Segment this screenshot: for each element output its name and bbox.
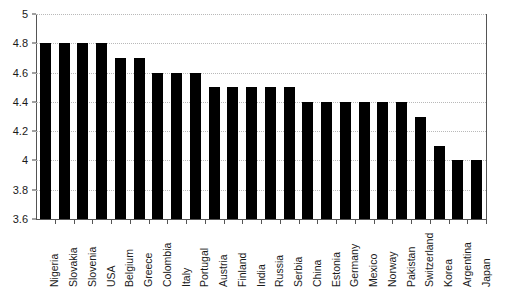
bar xyxy=(434,146,445,219)
x-tick-label: Slovenia xyxy=(87,247,98,287)
x-tick-label: Slovakia xyxy=(68,247,79,287)
y-tick-mark xyxy=(32,160,36,161)
x-tick-label: USA xyxy=(106,265,117,287)
x-tick-mark xyxy=(167,220,168,224)
x-tick-mark xyxy=(430,220,431,224)
bar xyxy=(190,73,201,219)
bar xyxy=(265,87,276,219)
y-tick-mark xyxy=(32,219,36,220)
x-tick-mark xyxy=(374,220,375,224)
x-tick-label: China xyxy=(312,260,323,287)
bar xyxy=(227,87,238,219)
x-tick-mark xyxy=(280,220,281,224)
x-tick-label: Portugal xyxy=(199,248,210,287)
bar xyxy=(134,58,145,219)
x-tick-mark xyxy=(261,220,262,224)
x-tick-mark xyxy=(486,220,487,224)
x-tick-label: India xyxy=(256,264,267,287)
y-tick-mark xyxy=(32,189,36,190)
y-tick-label: 4.2 xyxy=(13,126,28,137)
x-tick-label: Austria xyxy=(218,254,229,287)
y-tick-label: 3.8 xyxy=(13,184,28,195)
bar xyxy=(302,102,313,219)
bar xyxy=(471,160,482,219)
y-tick-mark xyxy=(32,43,36,44)
x-tick-mark xyxy=(149,220,150,224)
x-tick-label: Switzerland xyxy=(424,233,435,287)
bar xyxy=(115,58,126,219)
x-tick-mark xyxy=(186,220,187,224)
plot-area xyxy=(36,14,486,219)
x-tick-mark xyxy=(92,220,93,224)
y-tick-label: 5 xyxy=(22,9,28,20)
bar xyxy=(396,102,407,219)
x-tick-mark xyxy=(355,220,356,224)
bar-chart: 3.63.844.24.44.64.85 NigeriaSlovakiaSlov… xyxy=(0,0,514,293)
bar xyxy=(340,102,351,219)
x-tick-mark xyxy=(449,220,450,224)
bar xyxy=(40,43,51,219)
y-tick-mark xyxy=(32,72,36,73)
x-tick-label: Belgium xyxy=(124,249,135,287)
gridline xyxy=(36,14,486,15)
y-tick-mark xyxy=(32,14,36,15)
bar xyxy=(452,160,463,219)
y-tick-label: 4.4 xyxy=(13,96,28,107)
x-tick-mark xyxy=(224,220,225,224)
x-tick-label: Estonia xyxy=(331,252,342,287)
y-tick-label: 3.6 xyxy=(13,214,28,225)
x-tick-mark xyxy=(111,220,112,224)
bar xyxy=(321,102,332,219)
x-tick-label: Pakistan xyxy=(406,247,417,287)
x-tick-mark xyxy=(317,220,318,224)
y-axis: 3.63.844.24.44.64.85 xyxy=(0,0,34,293)
x-tick-mark xyxy=(205,220,206,224)
x-tick-mark xyxy=(467,220,468,224)
y-tick-mark xyxy=(32,131,36,132)
y-tick-mark xyxy=(32,101,36,102)
y-tick-label: 4.6 xyxy=(13,67,28,78)
x-tick-mark xyxy=(411,220,412,224)
bar xyxy=(359,102,370,219)
x-tick-label: Argentina xyxy=(462,242,473,287)
bar xyxy=(77,43,88,219)
x-tick-label: Mexico xyxy=(368,254,379,287)
x-tick-mark xyxy=(55,220,56,224)
x-tick-label: Nigeria xyxy=(49,254,60,287)
x-tick-label: Greece xyxy=(143,253,154,287)
bar xyxy=(152,73,163,219)
bar xyxy=(284,87,295,219)
x-tick-mark xyxy=(336,220,337,224)
x-tick-label: Russia xyxy=(274,255,285,287)
bar xyxy=(209,87,220,219)
right-axis-line xyxy=(486,14,487,219)
x-tick-mark xyxy=(130,220,131,224)
x-tick-label: Japan xyxy=(481,258,492,287)
bar xyxy=(96,43,107,219)
x-tick-label: Korea xyxy=(443,259,454,287)
bar xyxy=(59,43,70,219)
x-tick-label: Finland xyxy=(237,253,248,287)
x-tick-mark xyxy=(392,220,393,224)
x-tick-label: Norway xyxy=(387,251,398,287)
bar xyxy=(377,102,388,219)
y-tick-label: 4 xyxy=(22,155,28,166)
bar xyxy=(246,87,257,219)
x-tick-label: Italy xyxy=(181,268,192,287)
x-tick-label: Germany xyxy=(349,244,360,287)
x-tick-mark xyxy=(299,220,300,224)
x-tick-label: Colombia xyxy=(162,243,173,287)
bar xyxy=(415,117,426,220)
bar xyxy=(171,73,182,219)
x-tick-mark xyxy=(242,220,243,224)
x-tick-label: Serbia xyxy=(293,257,304,287)
y-tick-label: 4.8 xyxy=(13,38,28,49)
x-tick-mark xyxy=(74,220,75,224)
